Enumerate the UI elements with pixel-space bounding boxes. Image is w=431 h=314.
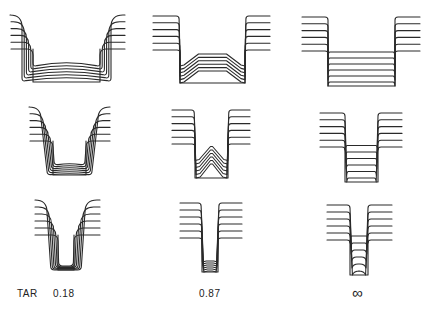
r2c3-contour bbox=[320, 133, 402, 162]
tar-value-col1: 0.18 bbox=[53, 288, 74, 299]
r1c3-trench-outline bbox=[328, 51, 395, 86]
r3c1-contour bbox=[35, 207, 100, 269]
tar-value-col3: ∞ bbox=[352, 284, 363, 301]
r1c3-contour bbox=[302, 37, 420, 68]
deposition-profiles-diagram bbox=[0, 0, 431, 314]
r3c1-contour bbox=[35, 214, 100, 268]
r3c3-contour bbox=[327, 236, 392, 243]
r2c2-contour bbox=[172, 144, 250, 161]
r3c1-trench-outline bbox=[58, 235, 74, 270]
r2c2-contour bbox=[172, 117, 250, 175]
r3c2-contour bbox=[180, 217, 242, 268]
r1c2-contour bbox=[153, 43, 270, 69]
r1c3-contour bbox=[302, 51, 420, 56]
r2c3-contour bbox=[320, 140, 402, 156]
r2c1-contour bbox=[30, 127, 110, 168]
r2c1-contour bbox=[30, 141, 110, 165]
r2c3-contour bbox=[320, 146, 402, 151]
r1c1-contour bbox=[10, 15, 125, 81]
tar-value-col2: 0.87 bbox=[199, 288, 220, 299]
r1c1-contour bbox=[11, 35, 125, 72]
r2c1-contour bbox=[30, 134, 110, 166]
r3c1-contour bbox=[35, 228, 100, 267]
r1c3-contour bbox=[302, 44, 420, 62]
r3c2-contour bbox=[180, 231, 242, 264]
r1c2-contour bbox=[153, 50, 270, 66]
r3c2-contour bbox=[180, 224, 242, 266]
r3c2-contour bbox=[180, 238, 242, 262]
r2c2-contour bbox=[172, 130, 250, 167]
r2c3-contour bbox=[320, 120, 402, 176]
tar-axis-label: TAR bbox=[17, 288, 38, 299]
r3c1-contour bbox=[35, 235, 100, 266]
